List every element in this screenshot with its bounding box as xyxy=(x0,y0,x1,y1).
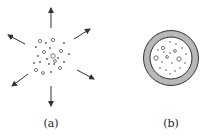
panel-b-encapsulation xyxy=(144,31,199,86)
arrow-up-left-icon xyxy=(8,35,25,44)
panel-b-label: (b) xyxy=(163,117,179,130)
inner-core xyxy=(150,37,192,79)
panel-a-label: (a) xyxy=(43,117,58,130)
arrow-up-right-icon xyxy=(74,29,90,39)
arrow-down-right-icon xyxy=(77,70,94,79)
arrow-down-left-icon xyxy=(12,74,28,86)
panel-a-dispersion xyxy=(8,8,94,106)
diagram-canvas xyxy=(0,0,201,136)
